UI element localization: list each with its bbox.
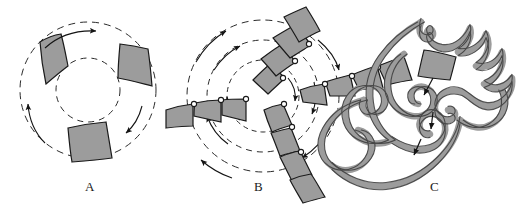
panel-label-b: B [254, 180, 263, 193]
figure-three-panel-mixing: A B C [0, 0, 527, 209]
flow-arrow-b-mid-1 [214, 46, 240, 70]
patch-bottom [68, 122, 112, 162]
panel-a [20, 22, 156, 162]
chain-l-quad-1 [222, 99, 246, 121]
figure-canvas [0, 0, 527, 209]
panel-label-c: C [430, 180, 439, 193]
chain-l-quad-3 [166, 104, 193, 128]
joint-ur-1 [280, 75, 285, 80]
joint-ur-2 [292, 58, 297, 63]
flow-arrow-b-outer-2 [318, 40, 339, 70]
chain-left [166, 99, 246, 128]
flow-arrow-right [126, 106, 142, 133]
panel-b [166, 7, 412, 203]
joint-r-2 [349, 73, 354, 78]
panel-c [318, 18, 512, 189]
chain-lr-quad-4 [290, 174, 325, 203]
chain-lower-right [264, 104, 325, 203]
chain-l-quad-2 [194, 100, 221, 122]
panel-label-a: A [85, 180, 94, 193]
flow-arrow-b-outer-1 [196, 31, 226, 62]
joint-l-3 [191, 101, 196, 106]
joint-r-1 [322, 81, 327, 86]
flow-arrow-b-inner-2 [288, 78, 295, 101]
flow-arrow-left [28, 104, 45, 143]
joint-l-2 [218, 97, 223, 102]
chain-r-quad-1 [300, 84, 327, 105]
chain-lr-quad-1 [264, 104, 292, 132]
joint-lr-2 [289, 124, 294, 129]
joint-lr-1 [281, 101, 286, 106]
joint-ur-3 [306, 41, 311, 46]
joint-lr-3 [298, 149, 303, 154]
patch-right [118, 44, 152, 86]
initial-element [418, 50, 456, 80]
joint-l-1 [243, 96, 248, 101]
chain-upper-right [253, 7, 320, 94]
